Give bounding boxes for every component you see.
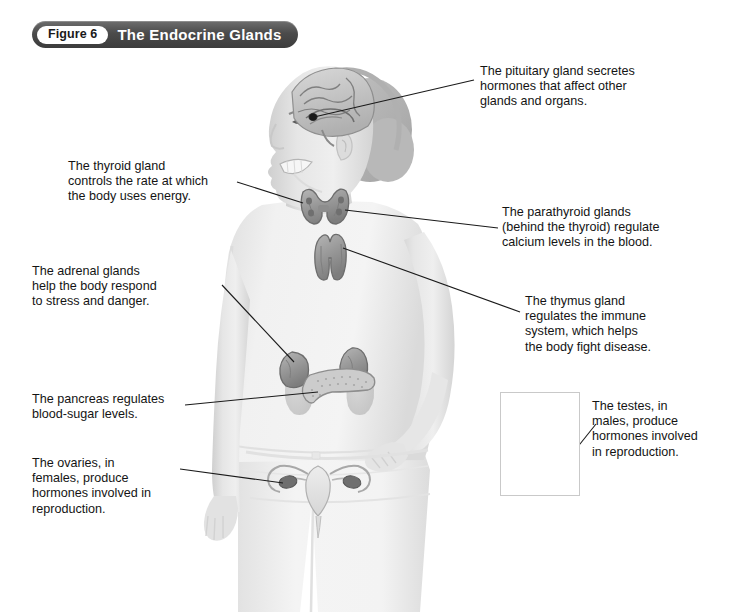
- callout-testes: The testes, in males, produce hormones i…: [592, 399, 698, 460]
- jeans-legs: [238, 440, 430, 612]
- callout-pituitary: The pituitary gland secretes hormones th…: [480, 64, 635, 110]
- figure-title: The Endocrine Glands: [117, 27, 281, 43]
- callout-parathyroid: The parathyroid glands (behind the thyro…: [502, 205, 660, 251]
- endocrine-glands-figure: Figure 6 The Endocrine Glands The pituit…: [0, 0, 745, 612]
- figure-number-badge: Figure 6: [37, 26, 108, 44]
- callout-ovaries: The ovaries, in females, produce hormone…: [32, 456, 151, 517]
- pituitary-gland: [308, 113, 317, 121]
- callout-pancreas: The pancreas regulates blood-sugar level…: [32, 392, 164, 422]
- testes-inset-frame: [500, 392, 580, 496]
- callout-thymus: The thymus gland regulates the immune sy…: [525, 294, 651, 355]
- callout-thyroid: The thyroid gland controls the rate at w…: [68, 159, 208, 205]
- callout-adrenal: The adrenal glands help the body respond…: [32, 264, 157, 310]
- figure-title-banner: Figure 6 The Endocrine Glands: [32, 21, 298, 48]
